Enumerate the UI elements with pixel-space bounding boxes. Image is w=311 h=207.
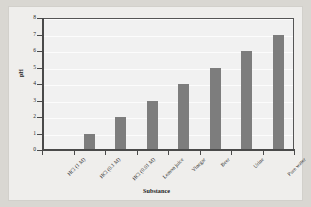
- y-axis-title: pH: [18, 69, 24, 77]
- plot-inner: [42, 19, 293, 150]
- gridline: [42, 118, 293, 119]
- x-axis-category-label: HCl (0.1 M): [99, 157, 122, 180]
- x-axis-category-label-text: HCl (1 M): [66, 157, 86, 177]
- y-axis-tick: [37, 51, 42, 52]
- y-axis-tick-label: 2: [12, 114, 36, 120]
- x-axis-tick: [42, 151, 43, 155]
- y-axis-line: [42, 18, 44, 151]
- y-axis-tick-label: 0: [12, 147, 36, 153]
- x-axis-category-label-text: Urine: [252, 157, 265, 170]
- gridline: [42, 69, 293, 70]
- bar: [115, 117, 126, 150]
- y-axis-tick-label: 3: [12, 98, 36, 104]
- y-axis-tick-labels: 012345678: [9, 7, 36, 202]
- x-axis-category-label: Urine: [252, 157, 265, 170]
- bar: [241, 51, 252, 150]
- y-axis-tick: [37, 68, 42, 69]
- x-axis-category-label-text: Vinegar: [191, 157, 207, 173]
- gridline: [42, 135, 293, 136]
- gridline: [42, 52, 293, 53]
- x-axis-tick: [137, 151, 138, 155]
- y-axis-tick-label: 1: [12, 131, 36, 137]
- y-axis-tick: [37, 18, 42, 19]
- y-axis-tick-label: 8: [12, 15, 36, 21]
- y-axis-tick: [37, 134, 42, 135]
- x-axis-category-label: Pure water: [287, 157, 307, 177]
- gridline: [42, 36, 293, 37]
- x-axis-tick: [74, 151, 75, 155]
- x-axis-category-label: Beer: [220, 157, 231, 168]
- bar: [210, 68, 221, 151]
- x-axis-category-label: HCl (1 M): [66, 157, 86, 177]
- x-axis-category-label-text: Beer: [220, 157, 231, 168]
- y-axis-tick-label: 5: [12, 65, 36, 71]
- gridline: [42, 19, 293, 20]
- y-axis-tick-label: 4: [12, 81, 36, 87]
- y-axis-tick: [37, 101, 42, 102]
- x-axis-tick: [231, 151, 232, 155]
- chart-figure: 012345678 pH HCl (1 M)HCl (0.1 M)HCl (0.…: [8, 6, 303, 201]
- y-axis-tick: [37, 84, 42, 85]
- x-axis-tick: [105, 151, 106, 155]
- y-axis-tick: [37, 117, 42, 118]
- plot-area: [42, 18, 294, 150]
- y-axis-tick-label: 6: [12, 48, 36, 54]
- x-axis-tick: [263, 151, 264, 155]
- x-axis-category-label-text: Lemon juice: [162, 157, 185, 180]
- bar: [84, 134, 95, 151]
- x-axis-tick: [294, 151, 295, 155]
- bar: [147, 101, 158, 151]
- gridline: [42, 102, 293, 103]
- x-axis-category-label: Vinegar: [191, 157, 207, 173]
- gridline: [42, 85, 293, 86]
- y-axis-tick: [37, 35, 42, 36]
- x-axis-category-label: Lemon juice: [162, 157, 185, 180]
- x-axis-tick: [200, 151, 201, 155]
- y-axis-tick-label: 7: [12, 32, 36, 38]
- x-axis-tick: [168, 151, 169, 155]
- x-axis-category-label-text: Pure water: [287, 157, 307, 177]
- bar: [273, 35, 284, 151]
- x-axis-category-label: HCl (0.01 M): [131, 157, 156, 182]
- x-axis-category-label-text: HCl (0.1 M): [99, 157, 122, 180]
- x-axis-title: Substance: [9, 187, 304, 194]
- bar: [178, 84, 189, 150]
- x-axis-category-label-text: HCl (0.01 M): [131, 157, 156, 182]
